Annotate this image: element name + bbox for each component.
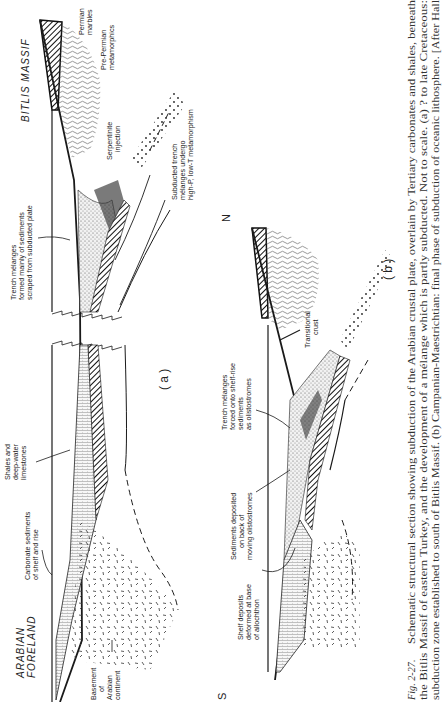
figure-caption: Fig. 2-27. Schematic structural section … xyxy=(406,0,442,701)
caption-line-1: Schematic structural section showing sub… xyxy=(406,0,417,644)
label-carbonate: Carbonate sediments of shelf and rise xyxy=(23,511,40,580)
svg-text:ARABIAN: ARABIAN xyxy=(15,627,26,679)
transitional-crust-line xyxy=(280,330,300,340)
svg-text:injection: injection xyxy=(113,126,122,152)
direction-north: N xyxy=(220,214,232,222)
svg-text:of shelf and rise: of shelf and rise xyxy=(31,529,40,580)
caption-line-2: the Bitlis Massif of eastern Turkey, and… xyxy=(418,0,430,700)
label-trench-melanges-a: Trench mélanges formed mainly of sedimen… xyxy=(9,205,34,300)
label-shelf-deposits: Shelf deposits deformed at base of alloc… xyxy=(236,584,261,640)
svg-text:FORELAND: FORELAND xyxy=(26,616,37,678)
leader-line xyxy=(256,410,290,428)
label-subducted-trench: Subducted trench mélanges undergo high-P… xyxy=(170,109,195,200)
caption-line-3: subduction zone established to south of … xyxy=(430,0,442,700)
leader-line xyxy=(256,470,290,492)
panel-b-label: ( b ) xyxy=(381,259,395,280)
permian-marbles-unit-b xyxy=(252,228,268,318)
svg-text:BITLIS MASSIF: BITLIS MASSIF xyxy=(20,38,31,122)
leader-line xyxy=(36,450,70,462)
direction-south: S xyxy=(216,693,228,700)
label-sediments-deposited: Sediments deposited on back of moving ol… xyxy=(229,492,254,560)
panel-a: BITLIS MASSIF ARABIAN FORELAND Permian m… xyxy=(3,8,195,702)
label-serpentinite: Serpentinite injection xyxy=(105,122,122,160)
slab-base-north xyxy=(118,210,170,312)
svg-text:metamorphics: metamorphics xyxy=(107,24,116,70)
label-permian-marbles: Permian marbles xyxy=(77,8,94,35)
figure-number: Fig. 2-27. xyxy=(406,660,417,701)
svg-text:as olistostromes: as olistostromes xyxy=(244,378,253,430)
arabian-basement xyxy=(70,520,178,670)
break-mark xyxy=(52,311,122,320)
panel-a-label: ( a ) xyxy=(157,369,171,390)
label-bitlis-massif: BITLIS MASSIF xyxy=(20,38,31,122)
label-arabian-foreland: ARABIAN FORELAND xyxy=(15,616,37,679)
leader-line xyxy=(42,550,52,575)
label-trench-melanges-b: Trench mélanges forced onto shelf-rise s… xyxy=(220,363,253,430)
svg-text:high-P, low-T metamorphism: high-P, low-T metamorphism xyxy=(186,109,195,200)
svg-text:moving olistostromes: moving olistostromes xyxy=(245,492,254,560)
svg-text:crust: crust xyxy=(311,319,320,335)
label-pre-permian: Pre-Permian metamorphics xyxy=(99,24,116,70)
svg-text:scraped from subducted plate: scraped from subducted plate xyxy=(25,205,34,300)
leader-line xyxy=(38,237,70,240)
svg-text:continent: continent xyxy=(113,671,122,700)
label-basement: Basement of Arabian continent xyxy=(89,668,122,700)
figure-canvas: BITLIS MASSIF ARABIAN FORELAND Permian m… xyxy=(0,0,442,702)
panel-b: N S Transitional crust Trench mélanges f… xyxy=(216,214,395,700)
svg-text:Basement: Basement xyxy=(89,668,98,700)
label-transitional-crust: Transitional crust xyxy=(303,311,320,348)
svg-text:of allochthon: of allochthon xyxy=(252,599,261,640)
label-shales: Shales and deep-water limestones xyxy=(3,443,28,480)
svg-text:limestones: limestones xyxy=(19,445,28,480)
lithosphere-base xyxy=(125,345,127,470)
svg-text:marbles: marbles xyxy=(85,9,94,35)
